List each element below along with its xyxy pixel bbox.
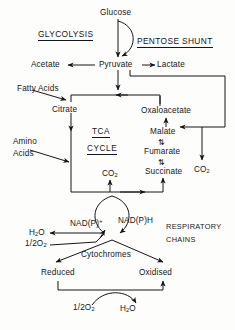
half-oxygen-top-subscript: 2 [43,242,46,248]
label-glycolysis: GLYCOLYSIS [38,30,93,41]
node-lactate: Lactate [157,60,185,69]
node-nadp-oxidised: NAD(P)+ [70,216,103,228]
equilibrium-fumarate-succinate: ⇅ [158,158,165,167]
co2-cycle-subscript: 2 [115,172,118,178]
water-bottom-o: O [129,304,136,313]
node-water-top: H2O [29,228,45,239]
water-top-o: O [38,228,45,237]
node-co2-right: CO2 [194,165,210,176]
label-respiratory-chains-line2: CHAINS [166,235,196,244]
edge-lactate-to-malate [130,70,225,127]
node-oxidised: Oxidised [139,268,172,277]
node-co2-cycle: CO2 [102,169,118,180]
half-oxygen-bottom-fraction: 1/2 [73,303,85,312]
node-reduced: Reduced [41,268,75,277]
metabolic-diagram-page: Glucose GLYCOLYSIS PENTOSE SHUNT Acetate… [0,0,235,330]
node-half-oxygen-top: 1/2O2 [25,239,47,250]
node-fatty-acids: Fatty Acids [17,84,59,93]
node-half-oxygen-bottom: 1/2O2 [73,303,95,314]
node-acetate: Acetate [31,60,60,69]
edge-aminoacids-citrate [30,150,69,162]
edge-oxygen-in [50,234,104,245]
node-succinate: Succinate [145,167,182,176]
node-nadp-reduced: NAD(P)H [118,216,153,225]
edge-pentose-shunt-arc [118,21,133,56]
nadp-ox-charge: + [99,217,103,224]
label-cycle: CYCLE [87,144,117,155]
edge-oxaloacetate-citrate [71,95,160,104]
co2-right-subscript: 2 [207,168,210,174]
node-oxaloacetate: Oxaloacetate [141,106,191,115]
node-cytochromes: Cytochromes [81,250,131,259]
node-pyruvate: Pyruvate [99,60,133,69]
node-amino-acids-line1: Amino [13,137,37,146]
nadp-ox-text: NAD(P) [70,219,99,228]
node-water-bottom: H2O [120,304,136,315]
co2-right-text: CO [194,165,207,174]
node-glucose: Glucose [100,8,131,17]
label-pentose-shunt: PENTOSE SHUNT [137,37,213,48]
equilibrium-malate-fumarate: ⇅ [158,138,165,147]
half-oxygen-top-fraction: 1/2 [25,239,37,248]
node-malate: Malate [150,127,175,136]
half-oxygen-bottom-subscript: 2 [91,306,94,312]
co2-cycle-text: CO [102,169,115,178]
node-citrate: Citrate [52,105,77,114]
node-fumarate: Fumarate [144,147,180,156]
node-amino-acids-line2: Acids [13,149,34,158]
label-respiratory-chains-line1: RESPIRATORY [166,222,221,231]
edge-reduced-oxidised-loop [58,281,163,290]
label-tca: TCA [92,127,110,138]
edge-nadp-right-arc [112,196,129,233]
